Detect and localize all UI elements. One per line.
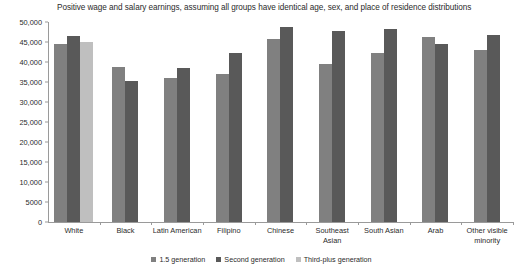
bar (319, 64, 332, 222)
bar (422, 37, 435, 222)
bar (54, 44, 67, 222)
y-axis-tick-label: 15,000 (0, 158, 48, 167)
y-axis-tick-label: 0 (0, 218, 48, 227)
x-axis-tick-mark (100, 222, 101, 225)
bar-group (461, 22, 513, 222)
bar (67, 36, 80, 222)
bar (164, 78, 177, 222)
bar (332, 31, 345, 222)
y-axis-tick-label: 40,000 (0, 58, 48, 67)
bar (216, 74, 229, 222)
x-axis-tick-mark (461, 222, 462, 225)
bar (371, 53, 384, 222)
y-axis-tick-mark (45, 182, 48, 183)
plot-area (48, 22, 513, 222)
y-axis-tick-label: 5000 (0, 198, 48, 207)
legend-item: 1.5 generation (151, 255, 205, 264)
legend-swatch-icon (216, 257, 221, 262)
bar-group (358, 22, 410, 222)
x-axis-label: Latin American (151, 226, 203, 236)
y-axis-tick-mark (45, 162, 48, 163)
y-axis-tick-mark (45, 102, 48, 103)
x-axis-label: White (48, 226, 100, 236)
bar (474, 50, 487, 222)
x-axis-tick-mark (358, 222, 359, 225)
bar (112, 67, 125, 222)
bar (435, 44, 448, 222)
bar (125, 81, 138, 222)
x-axis-label: South Asian (358, 226, 410, 236)
x-axis-label: Southeast Asian (306, 226, 358, 245)
bar-group (151, 22, 203, 222)
chart-title: Positive wage and salary earnings, assum… (57, 2, 523, 13)
y-axis-tick-label: 10,000 (0, 178, 48, 187)
bar-group (100, 22, 152, 222)
legend-label: 1.5 generation (159, 255, 205, 264)
legend-item: Second generation (216, 255, 284, 264)
bar-group (306, 22, 358, 222)
legend-swatch-icon (296, 257, 301, 262)
y-axis-tick-mark (45, 142, 48, 143)
x-axis-label: Arab (410, 226, 462, 236)
legend-item: Third-plus generation (296, 255, 372, 264)
y-axis-tick-label: 45,000 (0, 38, 48, 47)
x-axis-label: Other visible minority (461, 226, 513, 245)
x-axis-label: Filipino (203, 226, 255, 236)
x-axis-tick-mark (203, 222, 204, 225)
bar-group (410, 22, 462, 222)
y-axis-tick-mark (45, 202, 48, 203)
chart-legend: 1.5 generationSecond generationThird-plu… (0, 255, 523, 264)
x-axis-tick-mark (255, 222, 256, 225)
bar (384, 29, 397, 222)
y-axis-tick-label: 20,000 (0, 138, 48, 147)
bar-group (203, 22, 255, 222)
legend-label: Third-plus generation (304, 255, 372, 264)
x-axis-tick-mark (513, 222, 514, 225)
x-axis-tick-mark (410, 222, 411, 225)
y-axis-tick-label: 35,000 (0, 78, 48, 87)
bar-chart: Positive wage and salary earnings, assum… (0, 0, 523, 279)
y-axis-tick-mark (45, 222, 48, 223)
bar-group (255, 22, 307, 222)
bar (487, 35, 500, 222)
x-axis-tick-mark (151, 222, 152, 225)
bar (177, 68, 190, 222)
bar (80, 42, 93, 222)
bar (280, 27, 293, 222)
y-axis-tick-mark (45, 42, 48, 43)
bar (229, 53, 242, 222)
bar-group (48, 22, 100, 222)
y-axis-tick-label: 25,000 (0, 118, 48, 127)
y-axis-tick-mark (45, 62, 48, 63)
x-axis-line (48, 222, 514, 223)
y-axis-tick-label: 30,000 (0, 98, 48, 107)
x-axis-label: Chinese (255, 226, 307, 236)
y-axis-tick-mark (45, 82, 48, 83)
y-axis-tick-label: 50,000 (0, 18, 48, 27)
legend-label: Second generation (224, 255, 284, 264)
legend-swatch-icon (151, 257, 156, 262)
y-axis-tick-mark (45, 122, 48, 123)
x-axis-tick-mark (306, 222, 307, 225)
x-axis-label: Black (100, 226, 152, 236)
bar (267, 39, 280, 222)
y-axis-tick-mark (45, 22, 48, 23)
